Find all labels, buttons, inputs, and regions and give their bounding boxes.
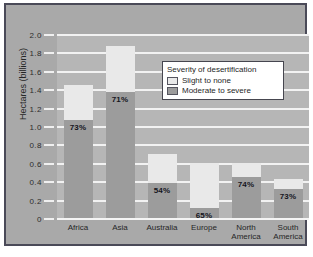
stacked-bar: 54%	[148, 154, 177, 218]
bar-value-label: 71%	[112, 95, 129, 104]
legend-entry: Moderate to severe	[167, 86, 279, 95]
y-tick-label: 1.0	[29, 123, 42, 132]
gridline	[57, 181, 309, 183]
gridline	[57, 34, 309, 36]
y-tick-label: 0	[37, 215, 42, 224]
legend-entries: Slight to noneModerate to severe	[167, 76, 279, 95]
bar-segment-moderate-to-severe: 73%	[274, 189, 303, 218]
y-tick-mark	[44, 181, 54, 183]
y-tick-mark	[44, 71, 54, 73]
bar-segment-slight-to-none	[190, 163, 219, 208]
y-tick-mark	[44, 34, 54, 36]
x-tick-label: Europe	[183, 223, 225, 232]
legend-label: Moderate to severe	[182, 86, 251, 95]
bar-segment-moderate-to-severe: 73%	[64, 120, 93, 218]
gridline	[57, 200, 309, 202]
gridline	[57, 52, 309, 54]
legend-title: Severity of desertification	[167, 65, 279, 74]
stacked-bar: 71%	[106, 46, 135, 218]
y-tick-label: 2.0	[29, 31, 42, 40]
y-tick-mark	[44, 89, 54, 91]
bar-segment-slight-to-none	[232, 163, 261, 177]
legend-swatch	[167, 87, 178, 95]
y-tick-label: 1.4	[29, 86, 42, 95]
y-tick-mark	[44, 108, 54, 110]
legend-swatch	[167, 77, 178, 85]
bar-value-label: 54%	[154, 186, 171, 195]
x-tick-label: Africa	[57, 223, 99, 232]
gridline	[57, 144, 309, 146]
bar-segment-moderate-to-severe: 71%	[106, 92, 135, 218]
x-tick-label: South America	[267, 223, 309, 241]
chart-figure: Hectares (billions) 2.01.81.61.41.21.00.…	[4, 3, 307, 246]
y-tick-mark	[44, 163, 54, 165]
bar-segment-slight-to-none	[64, 85, 93, 121]
bar-segment-slight-to-none	[148, 154, 177, 183]
stacked-bar: 73%	[64, 85, 93, 218]
y-tick-label: 0.2	[29, 196, 42, 205]
legend-entry: Slight to none	[167, 76, 279, 85]
y-tick-label: 1.2	[29, 104, 42, 113]
stacked-bar: 73%	[274, 179, 303, 218]
axis-baseline	[57, 218, 309, 220]
gridline	[57, 163, 309, 165]
stacked-bar: 65%	[190, 163, 219, 218]
bar-value-label: 73%	[280, 192, 297, 201]
y-axis-tick-labels: 2.01.81.61.41.21.00.80.60.40.20	[6, 34, 42, 220]
y-tick-label: 0.4	[29, 178, 42, 187]
chart-legend: Severity of desertification Slight to no…	[162, 61, 284, 100]
y-tick-mark	[44, 126, 54, 128]
bar-segment-slight-to-none	[274, 179, 303, 189]
bar-segment-moderate-to-severe: 54%	[148, 183, 177, 218]
bar-value-label: 73%	[70, 123, 87, 132]
y-tick-label: 0.8	[29, 141, 42, 150]
stacked-bar: 74%	[232, 163, 261, 218]
legend-label: Slight to none	[182, 76, 231, 85]
y-tick-mark	[44, 200, 54, 202]
y-tick-mark	[44, 52, 54, 54]
y-tick-label: 0.6	[29, 159, 42, 168]
gridline	[57, 126, 309, 128]
x-tick-label: Asia	[99, 223, 141, 232]
y-tick-label: 1.6	[29, 67, 42, 76]
bar-segment-moderate-to-severe: 74%	[232, 177, 261, 218]
y-tick-label: 1.8	[29, 49, 42, 58]
y-tick-mark	[44, 218, 54, 220]
bar-segment-moderate-to-severe: 65%	[190, 208, 219, 218]
gridline	[57, 108, 309, 110]
bar-segment-slight-to-none	[106, 46, 135, 92]
x-tick-label: North America	[225, 223, 267, 241]
bar-value-label: 74%	[238, 180, 255, 189]
x-tick-label: Australia	[141, 223, 183, 232]
y-tick-mark	[44, 144, 54, 146]
